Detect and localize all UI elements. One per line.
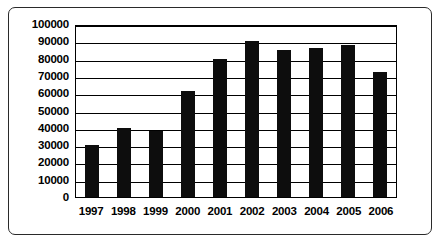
- bar-slot: [140, 26, 172, 197]
- bar-2003[interactable]: [277, 50, 291, 197]
- bar-slot: [204, 26, 236, 197]
- bar-1999[interactable]: [149, 131, 163, 197]
- x-axis-tick-label: 2006: [365, 204, 397, 226]
- x-axis-tick-label: 1999: [139, 204, 171, 226]
- bar-slot: [108, 26, 140, 197]
- x-axis-tick-label: 1997: [75, 204, 107, 226]
- x-axis-tick-label: 2004: [300, 204, 332, 226]
- x-axis-tick-label: 2005: [333, 204, 365, 226]
- y-axis-tick-label: 10000: [9, 175, 69, 187]
- chart-plot-area: [75, 25, 397, 198]
- y-axis-tick-label: 50000: [9, 106, 69, 118]
- y-axis-tick-label: 80000: [9, 54, 69, 66]
- x-axis-tick-label: 2002: [236, 204, 268, 226]
- y-axis-tick-label: 70000: [9, 71, 69, 83]
- y-axis-tick-label: 30000: [9, 140, 69, 152]
- y-axis-tick-label: 40000: [9, 123, 69, 135]
- bar-2004[interactable]: [309, 48, 323, 197]
- bar-slot: [76, 26, 108, 197]
- bar-slot: [300, 26, 332, 197]
- y-axis-tick-label: 100000: [9, 19, 69, 31]
- x-axis-tick-label: 2001: [204, 204, 236, 226]
- y-axis-tick-label: 0: [9, 192, 69, 204]
- bar-2005[interactable]: [341, 45, 355, 197]
- bar-1997[interactable]: [85, 145, 99, 197]
- bar-slot: [332, 26, 364, 197]
- y-axis-tick-label: 20000: [9, 157, 69, 169]
- bar-2006[interactable]: [373, 72, 387, 197]
- bar-1998[interactable]: [117, 128, 131, 197]
- bar-2000[interactable]: [181, 91, 195, 197]
- bar-slot: [364, 26, 396, 197]
- chart-plot-wrapper: 1000009000080000700006000050000400003000…: [9, 8, 433, 236]
- y-axis-tick-label: 90000: [9, 36, 69, 48]
- x-axis-tick-label: 2003: [268, 204, 300, 226]
- bar-slot: [236, 26, 268, 197]
- y-axis-tick-label: 60000: [9, 88, 69, 100]
- chart-frame: 1000009000080000700006000050000400003000…: [8, 7, 432, 235]
- bar-slot: [172, 26, 204, 197]
- bar-2002[interactable]: [245, 41, 259, 197]
- x-axis-tick-label: 2000: [172, 204, 204, 226]
- chart-bars: [76, 26, 396, 197]
- x-axis-tick-labels: 1997199819992000200120022003200420052006: [75, 204, 397, 226]
- y-axis-tick-labels: 1000009000080000700006000050000400003000…: [9, 8, 73, 236]
- x-axis-tick-label: 1998: [107, 204, 139, 226]
- bar-2001[interactable]: [213, 59, 227, 197]
- bar-slot: [268, 26, 300, 197]
